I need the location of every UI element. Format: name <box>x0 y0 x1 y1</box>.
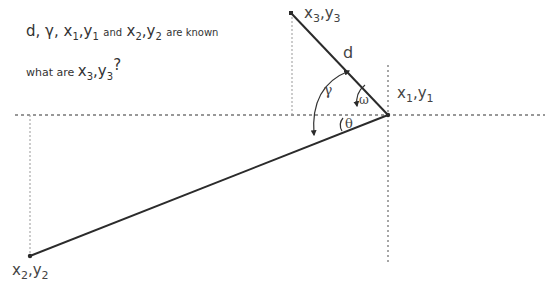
point-p3 <box>289 11 293 15</box>
segment-d <box>291 13 388 115</box>
label-p3: x3,y3 <box>304 4 341 22</box>
and-word: and <box>103 27 122 38</box>
question-mark: ? <box>113 56 121 74</box>
unknown-x3: x <box>78 62 87 80</box>
theta-symbol: θ <box>345 116 353 131</box>
diagram-canvas <box>0 0 545 296</box>
point-p2 <box>28 254 32 258</box>
known-gamma: γ <box>45 22 54 40</box>
omega-symbol: ω <box>359 93 369 107</box>
known-d: d <box>26 22 36 40</box>
label-d: d <box>343 43 353 62</box>
gamma-arc <box>314 71 349 135</box>
known-y2: y <box>147 22 156 40</box>
theta-arc <box>340 118 343 131</box>
are-known-text: are known <box>166 27 218 38</box>
question-prefix: what are <box>26 66 74 79</box>
unknown-y3: y <box>98 62 107 80</box>
segment-p1-p2 <box>30 115 388 256</box>
problem-statement-line-1: d, γ, x1,y1 and x2,y2 are known <box>26 22 218 40</box>
label-p1: x1,y1 <box>397 84 434 102</box>
point-p1 <box>386 113 390 117</box>
label-p2: x2,y2 <box>12 261 49 279</box>
problem-statement-line-2: what are x3,y3? <box>26 56 121 80</box>
gamma-symbol: γ <box>324 82 332 98</box>
